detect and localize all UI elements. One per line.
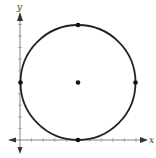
x-axis-label: x: [149, 135, 154, 145]
right-point: [133, 80, 138, 85]
y-axis-label: y: [16, 2, 23, 12]
x-axis-left-arrow-icon: [8, 138, 16, 143]
center-point: [76, 80, 81, 85]
x-axis-right-arrow-icon: [140, 137, 148, 143]
top-point: [76, 23, 81, 28]
y-axis-down-arrow-icon: [18, 147, 23, 154]
circle-diagram: y x: [0, 0, 156, 158]
left-point: [18, 80, 23, 85]
bottom-point: [76, 138, 81, 143]
y-axis-up-arrow-icon: [17, 12, 23, 21]
